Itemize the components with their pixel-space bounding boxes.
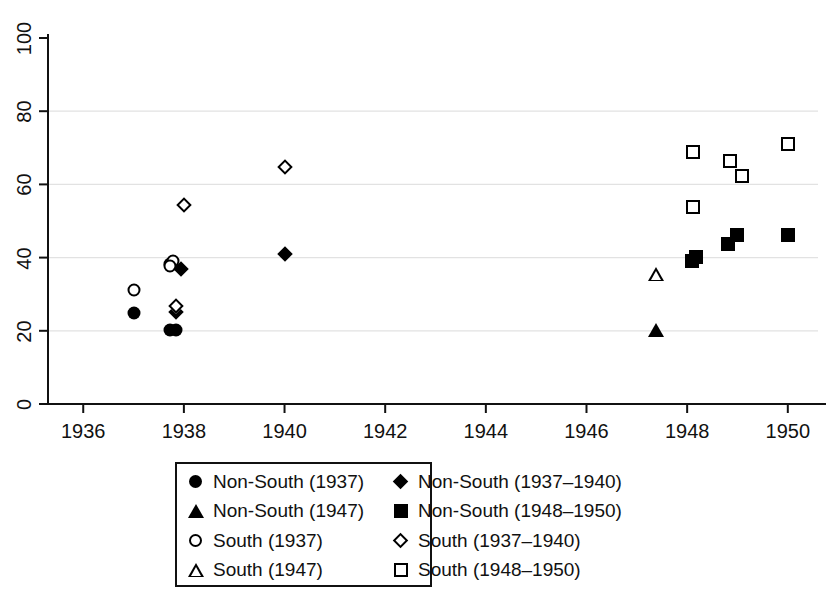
marker-filled-square <box>781 228 795 242</box>
marker-open-square <box>735 169 749 183</box>
marker-filled-circle <box>127 307 140 320</box>
y-tick-label-100: 100 <box>13 17 36 61</box>
filled-diamond-icon <box>392 473 409 490</box>
marker-open-square <box>686 200 700 214</box>
marker-filled-circle <box>170 324 183 337</box>
legend-item-6[interactable]: South (1947) <box>187 556 392 584</box>
legend-label: Non-South (1937) <box>213 471 364 493</box>
open-square-icon <box>392 562 409 579</box>
x-tick-label-1940: 1940 <box>250 420 320 443</box>
marker-filled-square <box>730 228 744 242</box>
open-triangle-glyph <box>188 563 204 577</box>
x-tick-label-1950: 1950 <box>753 420 823 443</box>
open-circle-glyph <box>189 534 202 547</box>
x-tick-label-1938: 1938 <box>149 420 219 443</box>
open-triangle-icon <box>187 562 204 579</box>
marker-filled-square <box>689 250 703 264</box>
legend-item-1[interactable]: Non-South (1937–1940) <box>392 468 647 496</box>
plot-axes <box>0 0 829 460</box>
open-diamond-icon <box>392 532 409 549</box>
filled-triangle-glyph <box>188 504 204 518</box>
marker-open-triangle <box>648 267 664 281</box>
open-diamond-glyph <box>393 533 409 549</box>
legend-item-2[interactable]: Non-South (1947) <box>187 497 392 525</box>
open-square-glyph <box>394 563 408 577</box>
filled-diamond-glyph <box>393 474 409 490</box>
filled-circle-icon <box>187 473 204 490</box>
y-tick-label-40: 40 <box>13 236 36 280</box>
x-tick-label-1946: 1946 <box>551 420 621 443</box>
legend-item-5[interactable]: South (1937–1940) <box>392 527 647 555</box>
x-tick-label-1942: 1942 <box>350 420 420 443</box>
open-circle-icon <box>187 532 204 549</box>
marker-open-square <box>781 137 795 151</box>
legend-label: South (1948–1950) <box>418 559 581 581</box>
y-tick-label-0: 0 <box>13 383 36 427</box>
legend-item-4[interactable]: South (1937) <box>187 527 392 555</box>
legend-item-7[interactable]: South (1948–1950) <box>392 556 647 584</box>
marker-open-square <box>723 154 737 168</box>
filled-square-glyph <box>394 504 408 518</box>
y-tick-label-20: 20 <box>13 309 36 353</box>
legend-label: South (1937) <box>213 530 323 552</box>
chart-legend: Non-South (1937)Non-South (1937–1940)Non… <box>175 462 432 587</box>
legend-item-3[interactable]: Non-South (1948–1950) <box>392 497 647 525</box>
legend-label: Non-South (1948–1950) <box>418 500 622 522</box>
x-tick-label-1948: 1948 <box>652 420 722 443</box>
x-tick-label-1944: 1944 <box>451 420 521 443</box>
filled-triangle-icon <box>187 503 204 520</box>
y-tick-label-80: 80 <box>13 90 36 134</box>
chart-page: 020406080100 193619381940194219441946194… <box>0 0 829 604</box>
legend-label: South (1937–1940) <box>418 530 581 552</box>
filled-circle-glyph <box>189 475 202 488</box>
y-tick-label-60: 60 <box>13 163 36 207</box>
legend-label: Non-South (1947) <box>213 500 364 522</box>
marker-filled-triangle <box>648 323 664 337</box>
legend-label: Non-South (1937–1940) <box>418 471 622 493</box>
legend-items: Non-South (1937)Non-South (1937–1940)Non… <box>177 464 637 585</box>
legend-item-0[interactable]: Non-South (1937) <box>187 468 392 496</box>
x-tick-label-1936: 1936 <box>48 420 118 443</box>
scatter-plot: 020406080100 193619381940194219441946194… <box>0 0 829 460</box>
filled-square-icon <box>392 503 409 520</box>
marker-open-square <box>686 145 700 159</box>
marker-open-circle <box>127 283 140 296</box>
legend-label: South (1947) <box>213 559 323 581</box>
